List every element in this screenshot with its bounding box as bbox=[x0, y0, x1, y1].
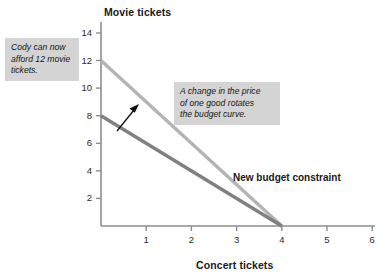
x-tick-label-2: 2 bbox=[181, 234, 201, 245]
y-tick-label-10: 10 bbox=[70, 82, 92, 93]
x-tick-label-1: 1 bbox=[136, 234, 156, 245]
chart-figure: Movie tickets Concert tickets 14 12 10 8… bbox=[0, 0, 383, 279]
x-tick-label-6: 6 bbox=[362, 234, 382, 245]
callout-cody-affordability: Cody can now afford 12 movie tickets. bbox=[5, 38, 79, 81]
x-tick-label-4: 4 bbox=[272, 234, 292, 245]
x-tick-label-5: 5 bbox=[317, 234, 337, 245]
x-axis-title: Concert tickets bbox=[196, 259, 273, 271]
y-tick-label-4: 4 bbox=[70, 165, 92, 176]
y-tick-label-14: 14 bbox=[70, 27, 92, 38]
series-label-new-budget-constraint: New budget constraint bbox=[233, 172, 341, 183]
original-budget-line bbox=[101, 116, 282, 226]
rotation-arrow-icon bbox=[117, 104, 139, 131]
y-axis-title: Movie tickets bbox=[104, 6, 171, 18]
x-tick-label-3: 3 bbox=[227, 234, 247, 245]
y-tick-label-6: 6 bbox=[70, 137, 92, 148]
y-tick-label-2: 2 bbox=[70, 192, 92, 203]
y-tick-label-8: 8 bbox=[70, 110, 92, 121]
callout-price-change-rotation: A change in the price of one good rotate… bbox=[174, 82, 280, 125]
